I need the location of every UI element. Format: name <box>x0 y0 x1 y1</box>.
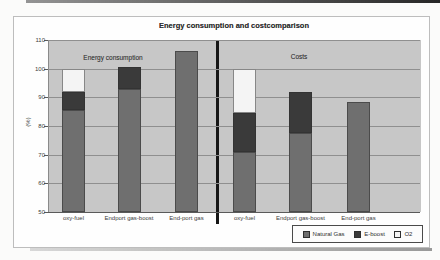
legend-item-o2: O2 <box>394 231 412 238</box>
x-category-label: Endport gas-boost <box>104 215 153 221</box>
section-label-costs: Costs <box>291 53 308 60</box>
bar-segment-o2 <box>62 69 85 92</box>
bar-segment-e-boost <box>62 92 85 111</box>
legend-label: O2 <box>404 231 412 237</box>
y-tick-label: 110 <box>26 37 45 43</box>
y-tick-label: 100 <box>26 66 45 72</box>
legend-swatch-o2 <box>394 231 401 238</box>
bar-segment-o2 <box>233 69 256 113</box>
legend-label: Natural Gas <box>313 231 345 237</box>
y-tick-label: 70 <box>26 152 45 158</box>
y-tick-label: 50 <box>26 209 45 215</box>
gridline <box>48 212 420 213</box>
x-category-label: oxy-fuel <box>63 215 84 221</box>
bar-segment-natural-gas <box>175 51 198 212</box>
chart-layer: 1101009080706050Energy consumptionoxy-fu… <box>0 0 440 260</box>
bar-segment-natural-gas <box>233 152 256 212</box>
bar-segment-e-boost <box>118 67 141 89</box>
section-label-energy-consumption: Energy consumption <box>83 54 142 61</box>
legend-item-e-boost: E-boost <box>354 231 385 238</box>
y-tick-label: 60 <box>26 180 45 186</box>
x-category-label: Endport gas-boost <box>276 215 325 221</box>
bar-segment-e-boost <box>233 113 256 152</box>
y-tick-label: 90 <box>26 94 45 100</box>
bar-segment-e-boost <box>289 92 312 134</box>
legend-swatch-natural-gas <box>303 231 310 238</box>
gridline <box>48 40 420 41</box>
x-category-label: End-port gas <box>169 215 203 221</box>
scan-artifact-bottom-shadow <box>30 248 432 251</box>
legend-swatch-e-boost <box>354 231 361 238</box>
x-category-label: oxy-fuel <box>234 215 255 221</box>
bar-segment-natural-gas <box>62 110 85 212</box>
x-category-label: End-port gas <box>341 215 375 221</box>
bar-segment-natural-gas <box>347 102 370 212</box>
legend-item-natural-gas: Natural Gas <box>303 231 345 238</box>
y-tick-label: 80 <box>26 123 45 129</box>
legend-label: E-boost <box>364 231 385 237</box>
bar-segment-natural-gas <box>289 133 312 212</box>
bar-segment-natural-gas <box>118 89 141 212</box>
legend-box: Natural GasE-boostO2 <box>292 225 423 243</box>
